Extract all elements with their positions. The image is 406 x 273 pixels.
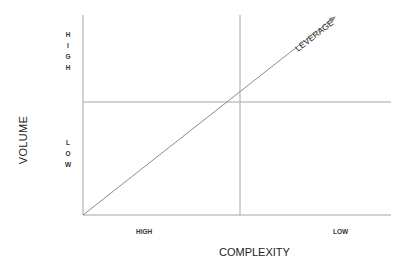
leverage-label: LEVERAGE [293,17,336,53]
stacked-letter: G [63,51,73,62]
y-high-label: HIGH [63,29,73,73]
stacked-letter: L [63,137,73,148]
x-high-label: HIGH [136,228,152,235]
x-low-label: LOW [333,228,348,235]
stacked-letter: O [63,148,73,159]
stacked-letter: H [63,62,73,73]
y-axis-title: VOLUME [17,110,29,170]
y-high-letters: HIGH [63,29,73,73]
stacked-letter: H [63,29,73,40]
stacked-letter: I [63,40,73,51]
x-axis-title: COMPLEXITY [219,246,290,258]
y-low-label: LOW [63,137,73,170]
stacked-letter: W [63,159,73,170]
y-low-letters: LOW [63,137,73,170]
